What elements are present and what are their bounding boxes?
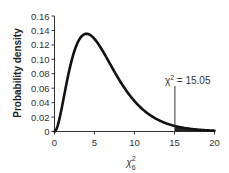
- y-tick-label: 0.02: [31, 112, 50, 123]
- x-axis-title: χ26: [125, 155, 135, 171]
- y-tick-label: 0.14: [31, 25, 50, 36]
- x-axis-ticks: 05101520: [52, 132, 220, 148]
- y-tick-label: 0: [44, 126, 49, 137]
- xlabel-sup: 2: [132, 155, 136, 162]
- y-axis-title: Probability density: [12, 28, 23, 118]
- xlabel-sub: 6: [132, 164, 136, 171]
- annot-value: = 15.05: [174, 75, 211, 86]
- critical-value-label: χ2 = 15.05: [165, 74, 211, 86]
- y-tick-label: 0.04: [31, 97, 50, 108]
- chi-square-chart: Probability density 00.020.040.060.080.1…: [0, 0, 229, 173]
- y-tick-label: 0.10: [31, 54, 50, 65]
- x-tick-label: 20: [209, 137, 220, 148]
- x-tick-label: 0: [52, 137, 57, 148]
- y-tick-label: 0.16: [31, 11, 50, 22]
- x-tick-label: 10: [129, 137, 140, 148]
- y-tick-label: 0.08: [31, 68, 50, 79]
- x-tick-label: 5: [92, 137, 97, 148]
- x-tick-label: 15: [169, 137, 180, 148]
- y-axis-label: Probability density: [12, 28, 23, 118]
- y-tick-label: 0.06: [31, 83, 50, 94]
- y-tick-label: 0.12: [31, 39, 50, 50]
- y-axis-ticks: 00.020.040.060.080.100.120.140.16: [31, 11, 55, 138]
